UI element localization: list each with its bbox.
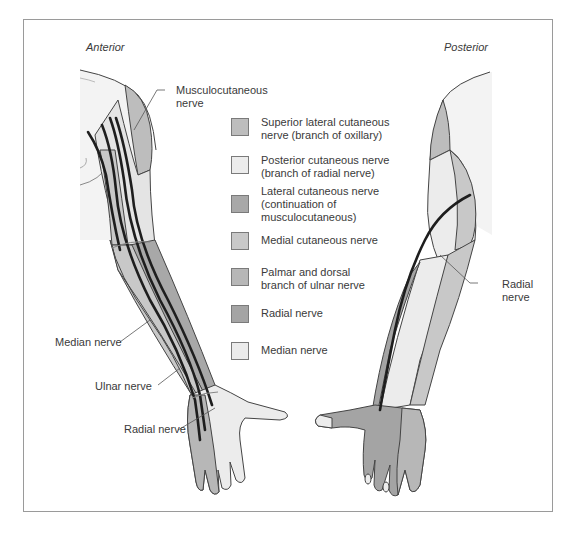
- legend-label: Palmar and dorsal branch of ulnar nerve: [261, 266, 365, 292]
- legend-item-radial-nerve: Radial nerve: [231, 305, 323, 323]
- callout-radial-nerve-posterior: Radial nerve: [502, 278, 533, 304]
- legend-label: Medial cutaneous nerve: [261, 234, 378, 247]
- legend-swatch: [231, 268, 249, 286]
- legend-swatch: [231, 342, 249, 360]
- legend-item-lateral-cutaneous: Lateral cutaneous nerve (continuation of…: [231, 187, 379, 224]
- callout-ulnar-nerve: Ulnar nerve: [95, 380, 152, 393]
- legend-item-superior-lateral-cutaneous: Superior lateral cutaneous nerve (branch…: [231, 118, 389, 142]
- anterior-title: Anterior: [86, 41, 125, 53]
- legend-label: Radial nerve: [261, 307, 323, 320]
- legend-swatch: [231, 195, 249, 213]
- legend-item-palmar-dorsal-ulnar: Palmar and dorsal branch of ulnar nerve: [231, 268, 365, 292]
- legend-label: Posterior cutaneous nerve (branch of rad…: [261, 154, 389, 180]
- legend-item-medial-cutaneous: Medial cutaneous nerve: [231, 232, 378, 250]
- legend-label: Lateral cutaneous nerve (continuation of…: [261, 185, 379, 224]
- callout-musculocutaneous-nerve: Musculocutaneous nerve: [176, 84, 268, 110]
- legend-label: Superior lateral cutaneous nerve (branch…: [261, 116, 389, 142]
- legend-item-posterior-cutaneous: Posterior cutaneous nerve (branch of rad…: [231, 156, 389, 180]
- callout-radial-nerve-anterior: Radial nerve: [124, 423, 186, 436]
- legend-swatch: [231, 305, 249, 323]
- legend-item-median-nerve: Median nerve: [231, 342, 328, 360]
- legend-swatch: [231, 232, 249, 250]
- legend-swatch: [231, 118, 249, 136]
- legend-swatch: [231, 156, 249, 174]
- callout-median-nerve: Median nerve: [55, 336, 122, 349]
- legend-label: Median nerve: [261, 344, 328, 357]
- posterior-title: Posterior: [444, 41, 488, 53]
